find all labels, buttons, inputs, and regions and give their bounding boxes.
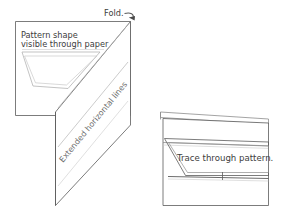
left-panel: Pattern shape visible through paper Exte…	[16, 8, 136, 206]
trace-through-pattern-label: Trace through pattern.	[176, 153, 273, 163]
folded-paper-figure: Pattern shape visible through paper Exte…	[0, 0, 283, 213]
fold-label: Fold.	[104, 8, 124, 18]
pattern-shape-label-line2: visible through paper	[21, 39, 109, 49]
right-panel: Trace through pattern.	[161, 112, 274, 206]
diagram-root: Pattern shape visible through paper Exte…	[0, 0, 283, 213]
fold-arrow-icon	[125, 13, 136, 21]
